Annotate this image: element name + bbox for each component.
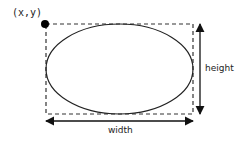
- ellipse-shape: [46, 24, 193, 114]
- origin-point-dot: [41, 20, 49, 28]
- origin-coordinate-label: (x,y): [12, 8, 42, 18]
- height-label: height: [205, 64, 234, 73]
- width-label: width: [108, 126, 133, 135]
